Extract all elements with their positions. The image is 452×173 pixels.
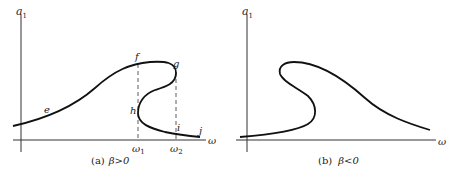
panel-a: a1 ω e f g h i j ω1 ω2 (a)β>0 (13, 5, 216, 166)
tick-omega2: ω2 (170, 143, 183, 156)
response-curve-b (240, 62, 430, 137)
point-e: e (44, 104, 50, 115)
point-g: g (173, 58, 179, 69)
y-axis-label: a1 (242, 5, 253, 20)
caption-a: (a)β>0 (91, 155, 130, 166)
response-curve-a (13, 62, 200, 137)
x-axis-label: ω (208, 135, 216, 146)
point-i: i (177, 122, 180, 133)
caption-b: (b)β<0 (318, 155, 359, 166)
figure: a1 ω e f g h i j ω1 ω2 (a)β>0 a1 ω (b)β<… (0, 0, 452, 173)
panel-b: a1 ω (b)β<0 (236, 5, 446, 166)
point-h: h (130, 105, 136, 116)
x-axis-label: ω (438, 136, 446, 147)
point-j: j (197, 125, 202, 136)
y-axis-label: a1 (16, 5, 27, 20)
point-f: f (134, 51, 141, 62)
tick-omega1: ω1 (132, 143, 145, 156)
